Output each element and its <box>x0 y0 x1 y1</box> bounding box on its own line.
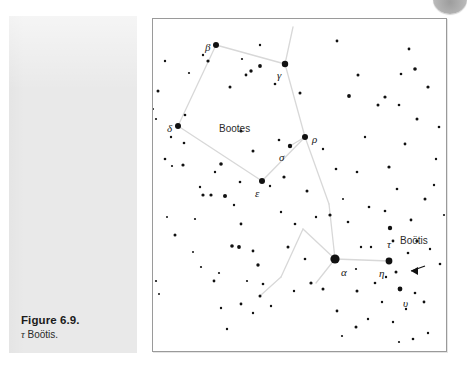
field-star <box>322 288 325 291</box>
figure-caption-title: Figure 6.9. <box>21 313 129 327</box>
named-star <box>386 258 393 265</box>
field-star <box>219 162 223 166</box>
field-star <box>342 198 344 200</box>
field-star <box>423 301 426 304</box>
constellation-line <box>285 27 293 64</box>
field-star <box>218 272 220 274</box>
field-star <box>368 206 371 209</box>
field-star <box>181 163 184 166</box>
field-star <box>400 73 403 76</box>
named-star <box>302 134 308 140</box>
field-star <box>383 95 386 98</box>
field-star <box>336 40 339 43</box>
named-star <box>175 123 181 129</box>
constellation-name: Bootes <box>219 123 250 134</box>
constellation-line <box>329 204 335 259</box>
field-star <box>188 72 190 74</box>
field-star <box>223 194 227 198</box>
field-star <box>377 104 380 107</box>
field-star <box>396 188 399 191</box>
field-star <box>280 211 282 213</box>
field-star <box>200 266 202 268</box>
field-star <box>259 295 262 298</box>
field-star <box>209 193 212 196</box>
field-star <box>183 142 186 145</box>
field-star <box>439 263 442 266</box>
field-star <box>245 74 248 77</box>
page-corner-thumb-icon <box>433 0 467 14</box>
field-star <box>256 263 259 266</box>
star-label-epsilon: ε <box>255 187 259 199</box>
constellation-line <box>303 229 335 259</box>
field-star <box>259 44 261 46</box>
figure-caption-block: Figure 6.9. τ Boötis. <box>21 313 129 341</box>
field-star <box>414 292 417 295</box>
field-star <box>252 250 255 253</box>
field-star <box>294 223 297 226</box>
star-label-beta: β <box>205 41 210 53</box>
named-star <box>213 42 219 48</box>
field-star <box>309 281 312 284</box>
figure-caption-panel: Figure 6.9. τ Boötis. <box>9 16 137 353</box>
field-star <box>387 165 390 168</box>
field-star <box>435 158 437 160</box>
star-label-delta: δ <box>167 122 172 134</box>
named-star <box>282 61 288 67</box>
field-star <box>370 246 372 248</box>
field-star <box>157 90 160 93</box>
star-chart-panel: BootesβγδρσεατηυBoötis <box>152 18 447 352</box>
field-star <box>192 251 194 253</box>
field-star <box>241 58 243 60</box>
field-star <box>237 245 241 249</box>
field-star <box>155 118 157 120</box>
field-star <box>171 165 173 167</box>
field-star <box>398 104 401 107</box>
named-star <box>398 287 403 292</box>
target-name-bootis: Boötis <box>400 235 428 246</box>
field-star <box>426 85 429 88</box>
tau-bootis-pointer-layer <box>411 266 425 275</box>
named-star <box>330 254 339 263</box>
field-star <box>174 234 177 237</box>
field-star <box>413 67 417 71</box>
field-star <box>322 148 324 150</box>
field-star <box>429 248 431 250</box>
field-star <box>278 139 281 142</box>
field-star <box>270 305 272 307</box>
constellation-line <box>216 45 285 64</box>
field-star <box>336 310 339 313</box>
field-star <box>262 283 265 286</box>
named-star <box>388 226 392 230</box>
field-star <box>233 204 235 206</box>
field-star <box>293 290 295 292</box>
star-label-tau: τ <box>387 238 391 250</box>
field-star <box>438 126 441 129</box>
field-star <box>287 246 290 249</box>
field-star <box>194 218 196 220</box>
field-star <box>170 136 172 138</box>
field-star <box>356 290 359 293</box>
field-star <box>158 293 160 295</box>
field-star <box>220 307 222 309</box>
field-star <box>328 213 331 216</box>
field-star <box>202 54 204 56</box>
star-label-sigma: σ <box>279 151 284 163</box>
star-label-gamma: γ <box>277 69 281 81</box>
field-star <box>299 92 302 95</box>
field-star <box>412 338 415 341</box>
field-star <box>155 280 157 282</box>
field-star <box>252 150 255 153</box>
constellation-line <box>261 277 281 295</box>
field-star <box>164 60 166 62</box>
field-star <box>249 69 252 72</box>
field-star <box>355 326 358 329</box>
field-star <box>274 83 277 86</box>
constellation-line <box>178 45 216 126</box>
figure-caption-subject: τ Boötis. <box>21 328 129 341</box>
field-star <box>184 114 187 117</box>
figure-caption-subject-name: Boötis. <box>25 329 58 340</box>
field-star <box>206 59 209 62</box>
field-star <box>416 118 419 121</box>
field-star <box>214 171 216 173</box>
